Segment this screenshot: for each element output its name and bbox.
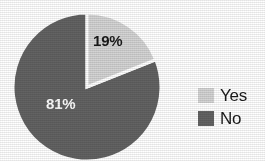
legend-swatch-yes-icon <box>198 88 214 103</box>
chart-legend: Yes No <box>198 84 264 130</box>
pie-svg <box>0 0 180 161</box>
pie-plot-area: 19% 81% <box>0 0 180 161</box>
legend-label-no: No <box>220 110 241 127</box>
legend-item-no[interactable]: No <box>198 107 264 130</box>
legend-label-yes: Yes <box>220 87 247 104</box>
legend-item-yes[interactable]: Yes <box>198 84 264 107</box>
pie-chart-figure: 19% 81% Yes No <box>0 0 265 161</box>
legend-swatch-no-icon <box>198 111 214 126</box>
